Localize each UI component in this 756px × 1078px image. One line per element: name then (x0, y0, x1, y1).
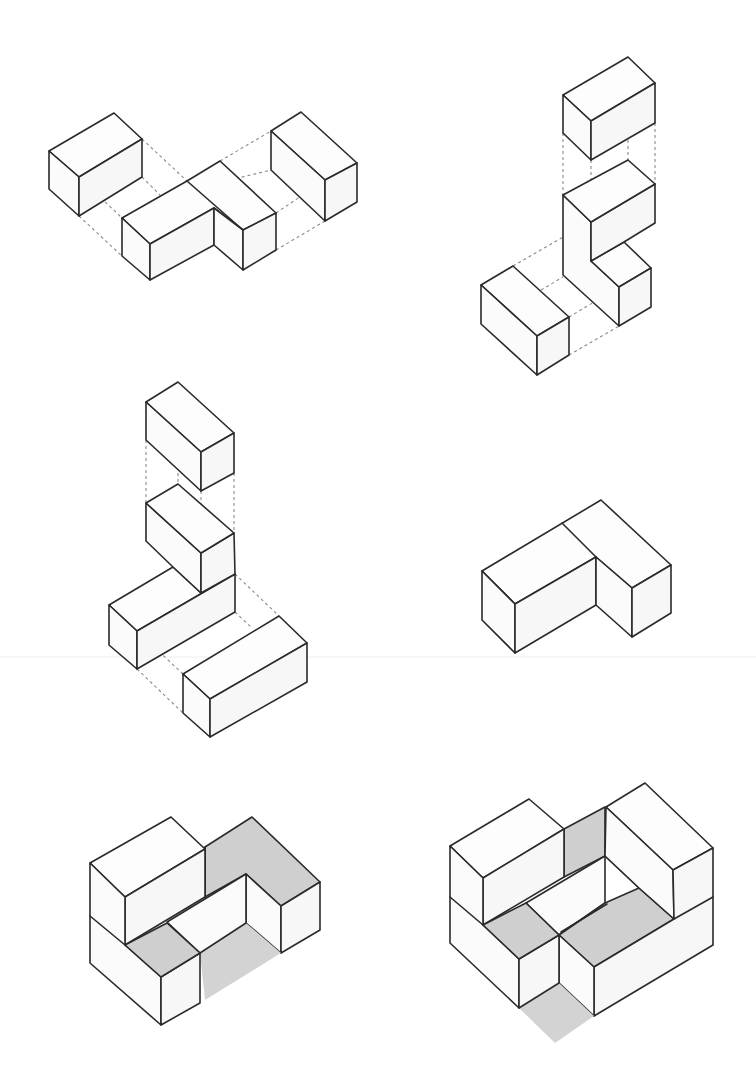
figure-4-assembled-l-shape (482, 500, 671, 653)
block-bottom-left (481, 266, 569, 375)
block-top (146, 382, 234, 491)
figure-5-assembled-shaded (90, 817, 320, 1025)
figure-2-exploded-vertical (481, 57, 655, 375)
block-right (271, 112, 357, 221)
block-middle (122, 161, 276, 280)
block-middle-assembly (109, 484, 235, 669)
block-left (49, 113, 142, 216)
figure-6-assembled-interlocking (450, 783, 713, 1043)
block-top (563, 57, 655, 160)
diagram-canvas (0, 0, 756, 1078)
figure-1-exploded-horizontal (49, 112, 357, 280)
isometric-block-diagram (0, 0, 756, 1078)
block-middle-stack (563, 160, 655, 326)
figure-3-exploded-tower (109, 382, 307, 737)
block-bottom-right (183, 616, 307, 737)
